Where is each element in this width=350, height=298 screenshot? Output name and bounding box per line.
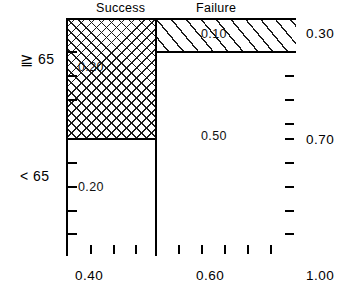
tick-right-7 (285, 186, 294, 188)
cell-value-success-high: 0.20 (78, 60, 104, 74)
cell-value-success-low: 0.20 (78, 180, 104, 194)
tick-right-8 (285, 210, 294, 212)
divider-horizontal-success (68, 138, 156, 140)
cell-value-failure-high: 0.10 (201, 27, 227, 41)
figure-caption (0, 291, 350, 298)
tick-left-6 (68, 210, 77, 212)
plot-area: 0.20 0.10 0.20 0.50 (66, 18, 296, 256)
mosaic-plot-figure: Success Failure ≧ 65 < 65 0.20 0.10 0.20… (0, 0, 350, 298)
tick-right-5 (285, 138, 294, 140)
tick-bottom-7 (247, 245, 249, 254)
row-header-high: ≧ 65 (20, 51, 54, 67)
tick-right-3 (285, 99, 294, 101)
axis-label-right-030: 0.30 (306, 26, 334, 41)
column-header-success: Success (96, 1, 145, 15)
tick-bottom-1 (90, 245, 92, 254)
tick-right-1 (285, 51, 294, 53)
axis-label-right-070: 0.70 (306, 132, 334, 147)
tick-bottom-4 (178, 245, 180, 254)
tick-bottom-2 (113, 245, 115, 254)
cell-success-low (68, 139, 155, 256)
tick-right-6 (285, 162, 294, 164)
cell-failure-low (155, 52, 296, 256)
axis-label-bottom-060: 0.60 (196, 268, 224, 283)
cell-value-failure-low: 0.50 (201, 129, 227, 143)
greater-equal-icon: ≧ (20, 52, 34, 68)
tick-bottom-5 (201, 245, 203, 254)
axis-label-bottom-040: 0.40 (75, 268, 103, 283)
divider-horizontal-failure (155, 51, 296, 53)
row-header-high-value: 65 (38, 51, 55, 67)
tick-bottom-3 (135, 245, 137, 254)
tick-left-5 (68, 186, 77, 188)
tick-bottom-8 (270, 245, 272, 254)
tick-left-1 (68, 51, 77, 53)
tick-right-2 (285, 75, 294, 77)
tick-right-4 (285, 123, 294, 125)
cell-success-high (68, 20, 155, 139)
tick-right-9 (285, 233, 294, 235)
row-header-low: < 65 (20, 168, 50, 184)
tick-left-4 (68, 162, 77, 164)
tick-bottom-6 (224, 245, 226, 254)
tick-left-2 (68, 75, 77, 77)
tick-left-7 (68, 233, 77, 235)
tick-left-3 (68, 99, 77, 101)
axis-label-bottom-100: 1.00 (306, 268, 334, 283)
column-header-failure: Failure (196, 1, 236, 15)
